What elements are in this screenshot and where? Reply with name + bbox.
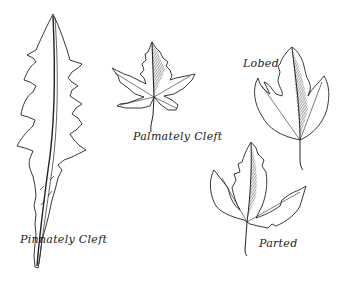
palmately-cleft-leaf-drawing (112, 42, 195, 132)
pinnately-cleft-label: Pinnately Cleft (20, 233, 107, 246)
pinnately-cleft-leaf-drawing (17, 14, 86, 268)
leaf-types-figure: Pinnately Cleft Palmately Cleft Lobed Pa… (0, 0, 352, 285)
lobed-label: Lobed (243, 57, 279, 70)
palmately-cleft-label: Palmately Cleft (133, 130, 223, 143)
parted-label: Parted (259, 237, 298, 250)
